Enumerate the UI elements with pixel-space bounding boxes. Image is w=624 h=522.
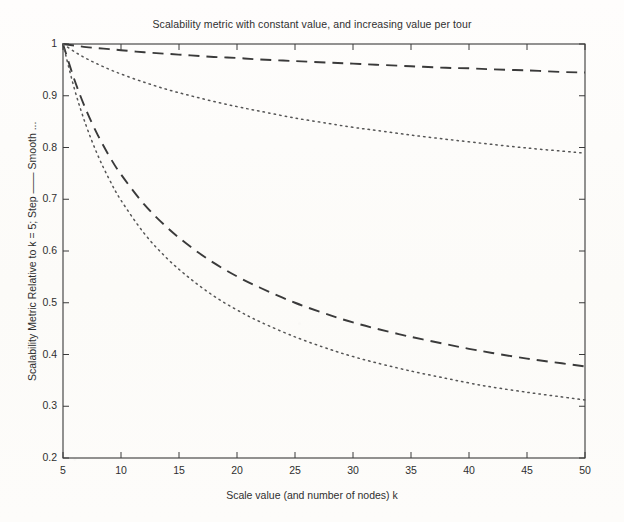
x-axis-label: Scale value (and number of nodes) k — [0, 489, 624, 501]
x-tick-label: 50 — [571, 464, 599, 476]
x-tick-label: 20 — [223, 464, 251, 476]
y-axis-label: Scalability Metric Relative to k = 5; St… — [26, 121, 38, 380]
x-tick-label: 15 — [165, 464, 193, 476]
series-line-3 — [63, 44, 585, 366]
series-line-4 — [63, 44, 585, 400]
x-tick-label: 30 — [339, 464, 367, 476]
data-series-layer — [63, 44, 585, 400]
y-axis-ticks — [63, 44, 585, 458]
series-line-1 — [63, 44, 585, 72]
y-tick-label: 0.2 — [27, 451, 57, 463]
y-tick-label: 0.3 — [27, 399, 57, 411]
x-tick-label: 35 — [397, 464, 425, 476]
x-axis-ticks — [63, 44, 585, 458]
x-tick-label: 40 — [455, 464, 483, 476]
y-tick-label: 0.9 — [27, 89, 57, 101]
x-tick-label: 25 — [281, 464, 309, 476]
chart-figure: Scalability metric with constant value, … — [0, 0, 624, 522]
plot-canvas — [0, 0, 624, 522]
x-tick-label: 10 — [107, 464, 135, 476]
x-tick-label: 5 — [49, 464, 77, 476]
series-line-2 — [63, 44, 585, 153]
x-tick-label: 45 — [513, 464, 541, 476]
y-tick-label: 1 — [27, 37, 57, 49]
axes-frame — [63, 44, 585, 458]
